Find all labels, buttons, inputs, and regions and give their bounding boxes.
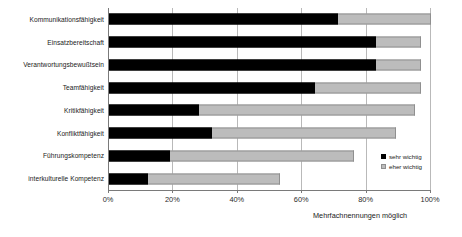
- tick-mark: [172, 190, 173, 193]
- tick-mark: [301, 190, 302, 193]
- category-label: Kritikfähigkeit: [0, 107, 104, 114]
- tick-label: 60%: [294, 195, 309, 204]
- chart-annotation: Mehrfachnennungen möglich: [313, 211, 407, 220]
- stacked-bar[interactable]: [109, 105, 415, 116]
- bar-segment-eher-wichtig[interactable]: [148, 173, 280, 184]
- stacked-bar[interactable]: [109, 128, 396, 139]
- tick-label: 100%: [421, 195, 440, 204]
- stacked-bar[interactable]: [109, 82, 421, 93]
- legend-item-eher-wichtig[interactable]: eher wichtig: [381, 163, 422, 170]
- bar-segment-sehr-wichtig[interactable]: [109, 128, 212, 139]
- stacked-bar[interactable]: [109, 173, 280, 184]
- category-label: Kommunikationsfähigkeit: [0, 16, 104, 23]
- chart-legend: sehr wichtig eher wichtig: [381, 153, 422, 170]
- tick-mark: [237, 190, 238, 193]
- chart-container: KommunikationsfähigkeitEinsatzbereitscha…: [0, 0, 462, 237]
- bar-segment-sehr-wichtig[interactable]: [109, 173, 148, 184]
- bar-segment-eher-wichtig[interactable]: [212, 128, 396, 139]
- bar-row: interkulturelle Kompetenz: [0, 167, 462, 190]
- bar-segment-sehr-wichtig[interactable]: [109, 105, 199, 116]
- tick-label: 20%: [165, 195, 180, 204]
- category-label: Verantwortungsbewußtsein: [0, 61, 104, 68]
- bar-segment-eher-wichtig[interactable]: [315, 82, 421, 93]
- tick-mark: [366, 190, 367, 193]
- bar-segment-sehr-wichtig[interactable]: [109, 150, 170, 161]
- category-label: Führungskompetenz: [0, 152, 104, 159]
- tick-mark: [108, 190, 109, 193]
- tick-label: 80%: [358, 195, 373, 204]
- category-label: Einsatzbereitschaft: [0, 39, 104, 46]
- bar-row: Teamfähigkeit: [0, 76, 462, 99]
- bar-segment-eher-wichtig[interactable]: [170, 150, 354, 161]
- legend-label-sehr-wichtig: sehr wichtig: [389, 153, 422, 160]
- bar-segment-eher-wichtig[interactable]: [376, 37, 421, 48]
- bar-segment-sehr-wichtig[interactable]: [109, 14, 338, 25]
- category-label: Teamfähigkeit: [0, 84, 104, 91]
- bar-row: Kommunikationsfähigkeit: [0, 8, 462, 31]
- tick-mark: [430, 190, 431, 193]
- bar-segment-sehr-wichtig[interactable]: [109, 37, 376, 48]
- value-axis: 0%20%40%60%80%100%: [0, 190, 462, 208]
- category-label: Konfliktfähigkeit: [0, 130, 104, 137]
- bar-row: Kritikfähigkeit: [0, 99, 462, 122]
- stacked-bar[interactable]: [109, 59, 421, 70]
- legend-swatch-eher-wichtig: [381, 164, 386, 169]
- stacked-bar[interactable]: [109, 37, 421, 48]
- bar-row: Einsatzbereitschaft: [0, 31, 462, 54]
- legend-item-sehr-wichtig[interactable]: sehr wichtig: [381, 153, 422, 160]
- stacked-bar[interactable]: [109, 150, 354, 161]
- bar-row: Verantwortungsbewußtsein: [0, 54, 462, 77]
- legend-label-eher-wichtig: eher wichtig: [389, 163, 422, 170]
- tick-label: 0%: [103, 195, 114, 204]
- legend-swatch-sehr-wichtig: [381, 154, 386, 159]
- tick-label: 40%: [229, 195, 244, 204]
- bar-segment-sehr-wichtig[interactable]: [109, 82, 315, 93]
- stacked-bar[interactable]: [109, 14, 431, 25]
- bar-segment-eher-wichtig[interactable]: [376, 59, 421, 70]
- category-label: interkulturelle Kompetenz: [0, 175, 104, 182]
- bar-segment-eher-wichtig[interactable]: [199, 105, 415, 116]
- bar-segment-sehr-wichtig[interactable]: [109, 59, 376, 70]
- bar-row: Konfliktfähigkeit: [0, 122, 462, 145]
- bar-segment-eher-wichtig[interactable]: [338, 14, 431, 25]
